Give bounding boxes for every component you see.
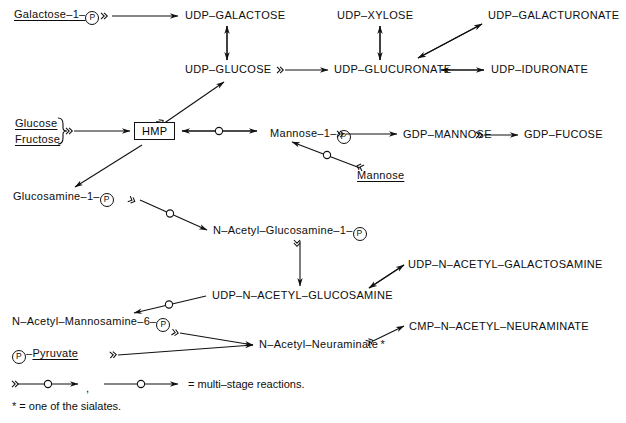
- arrow-nacetylmannosamine6p-to-nacetylneuraminate: [180, 333, 253, 345]
- node-n-acetyl-mannosamine-6-p: N–Acetyl–Mannosamine–6–P: [12, 316, 170, 332]
- legend-circle-2: [137, 380, 144, 387]
- chevron-pyruvate: [110, 351, 117, 358]
- arrow-hmp-to-glucosamine1p: [75, 145, 142, 187]
- node-fructose: Fructose: [15, 134, 60, 145]
- label-n-acetyl-glucosamine-1-p: N–Acetyl–Glucosamine–1–: [213, 224, 353, 236]
- node-galactose-1-p: Galactose–1–P: [14, 9, 99, 25]
- label-mannose: Mannose: [357, 169, 404, 181]
- chevron-glucosamine1p: [128, 196, 136, 204]
- node-udp-galactose: UDP–GALACTOSE: [185, 10, 285, 21]
- pathway-diagram: Galactose–1–P UDP–GALACTOSE UDP–XYLOSE U…: [0, 0, 626, 423]
- phosphate-icon: P: [156, 318, 170, 332]
- legend-circle-1: [44, 380, 51, 387]
- arrow-pyruvate-to-nacetylneuraminate: [118, 345, 253, 355]
- legend-multi-stage-text: = multi–stage reactions.: [188, 378, 304, 390]
- chevron-udpglucose: [277, 67, 283, 73]
- label-pyruvate: Pyruvate: [32, 347, 78, 359]
- label-galactose-1-p: Galactose–1–: [14, 8, 85, 20]
- phosphate-icon: P: [337, 130, 351, 144]
- multistage-circle-mannose: [323, 151, 330, 158]
- node-udp-galacturonate: UDP–GALACTURONATE: [488, 10, 619, 21]
- label-glucosamine-1-p: Glucosamine–1–: [13, 190, 100, 202]
- node-udp-n-acetyl-galactosamine: UDP–N–ACETYL–GALACTOSAMINE: [408, 259, 603, 270]
- label-glucose: Glucose: [15, 117, 57, 129]
- node-glucosamine-1-p: Glucosamine–1–P: [13, 191, 114, 207]
- label-mannose-1-p: Mannose–1–: [270, 127, 337, 139]
- multistage-circle-hmp-mannose: [215, 127, 222, 134]
- phosphate-icon: P: [353, 227, 367, 241]
- label-n-acetyl-mannosamine-6-p: N–Acetyl–Mannosamine–6–: [12, 315, 156, 327]
- node-cmp-n-acetyl-neuraminate: CMP–N–ACETYL–NEURAMINATE: [409, 321, 589, 332]
- node-udp-iduronate: UDP–IDURONATE: [491, 64, 588, 75]
- chevron-galactose: [101, 13, 107, 19]
- multistage-circle-glucosamine: [166, 210, 173, 217]
- label-fructose: Fructose: [15, 133, 60, 145]
- node-gdp-fucose: GDP–FUCOSE: [524, 129, 603, 140]
- phosphate-icon: P: [100, 193, 114, 207]
- arrow-udpnacetylglucosamine-to-udpnacetylgalactosamine: [369, 265, 404, 288]
- legend-comma: ,: [86, 382, 89, 394]
- phosphate-icon: P: [85, 11, 99, 25]
- node-gdp-mannose: GDP–MANNOSE: [403, 129, 492, 140]
- node-glucose: Glucose: [15, 118, 57, 129]
- arrow-hmp-to-udpglucose: [163, 82, 224, 124]
- chevron-legend: [12, 381, 18, 387]
- node-n-acetyl-glucosamine-1-p: N–Acetyl–Glucosamine–1–P: [213, 225, 367, 241]
- arrow-udpgalacturonate-to-udpglucuronate: [418, 24, 482, 58]
- node-udp-glucose: UDP–GLUCOSE: [185, 64, 271, 75]
- node-n-acetyl-neuraminate: N–Acetyl–Neuraminate *: [259, 339, 385, 350]
- node-udp-glucuronate: UDP–GLUCURONATE: [334, 64, 451, 75]
- multistage-circle-mannosamine: [165, 301, 172, 308]
- node-mannose: Mannose: [357, 170, 404, 181]
- phosphate-icon: P: [12, 350, 26, 364]
- node-p-pyruvate: P–Pyruvate: [12, 348, 78, 364]
- node-udp-xylose: UDP–XYLOSE: [337, 10, 413, 21]
- node-udp-n-acetyl-glucosamine: UDP–N–ACETYL–GLUCOSAMINE: [212, 290, 393, 301]
- node-mannose-1-p: Mannose–1–P: [270, 128, 351, 144]
- chevron-nacetylmannosamine6p: [171, 329, 178, 336]
- legend-sialate-text: * = one of the sialates.: [12, 400, 121, 412]
- node-hmp-box: HMP: [134, 122, 175, 140]
